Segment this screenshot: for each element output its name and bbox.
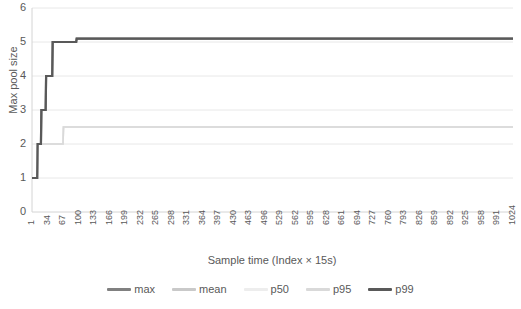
x-tick-label: 34 xyxy=(43,215,52,225)
x-tick-label: 496 xyxy=(260,210,269,225)
x-tick-label: 265 xyxy=(151,210,160,225)
x-tick-label: 166 xyxy=(105,210,114,225)
legend-label: p95 xyxy=(333,284,351,295)
legend-item-p95[interactable]: p95 xyxy=(306,284,351,295)
x-tick-label: 991 xyxy=(492,210,501,225)
legend-item-mean[interactable]: mean xyxy=(172,284,227,295)
legend-label: max xyxy=(134,284,155,295)
x-tick-label: 430 xyxy=(229,210,238,225)
x-tick-label: 67 xyxy=(58,215,67,225)
series-line-max xyxy=(32,39,513,178)
series-line-p50 xyxy=(32,127,513,178)
legend-label: p99 xyxy=(395,284,413,295)
x-tick-label: 694 xyxy=(353,210,362,225)
chart-legend: maxmeanp50p95p99 xyxy=(0,284,521,295)
x-tick-label: 364 xyxy=(198,210,207,225)
x-tick-label: 562 xyxy=(291,210,300,225)
x-tick-label: 331 xyxy=(182,210,191,225)
legend-item-max[interactable]: max xyxy=(107,284,155,295)
x-tick-label: 628 xyxy=(322,210,331,225)
x-tick-label: 793 xyxy=(399,210,408,225)
series-line-mean xyxy=(32,127,513,178)
x-tick-label: 133 xyxy=(89,210,98,225)
x-tick-label: 826 xyxy=(415,210,424,225)
legend-label: mean xyxy=(199,284,227,295)
x-tick-label: 859 xyxy=(430,210,439,225)
x-tick-label: 463 xyxy=(244,210,253,225)
x-tick-label: 595 xyxy=(306,210,315,225)
legend-swatch-icon xyxy=(172,288,196,291)
legend-label: p50 xyxy=(271,284,289,295)
x-tick-label: 199 xyxy=(120,210,129,225)
x-tick-label: 232 xyxy=(136,210,145,225)
x-tick-label: 1 xyxy=(27,220,36,225)
series-line-p95 xyxy=(32,127,513,178)
series-line-p99 xyxy=(32,39,513,178)
x-tick-label: 958 xyxy=(477,210,486,225)
x-tick-label: 397 xyxy=(213,210,222,225)
legend-swatch-icon xyxy=(107,288,131,291)
x-tick-label: 925 xyxy=(461,210,470,225)
x-axis-title: Sample time (Index × 15s) xyxy=(32,254,512,266)
x-tick-label: 298 xyxy=(167,210,176,225)
x-tick-label: 727 xyxy=(368,210,377,225)
legend-item-p99[interactable]: p99 xyxy=(368,284,413,295)
x-tick-label: 100 xyxy=(74,210,83,225)
chart-container: Max pool size 0123456 134671001331661992… xyxy=(0,0,521,309)
x-tick-label: 529 xyxy=(275,210,284,225)
legend-swatch-icon xyxy=(306,288,330,291)
legend-item-p50[interactable]: p50 xyxy=(244,284,289,295)
x-tick-label: 892 xyxy=(446,210,455,225)
x-tick-label: 661 xyxy=(337,210,346,225)
legend-swatch-icon xyxy=(244,288,268,291)
x-tick-label: 760 xyxy=(384,210,393,225)
x-tick-label: 1024 xyxy=(508,205,517,225)
legend-swatch-icon xyxy=(368,288,392,291)
